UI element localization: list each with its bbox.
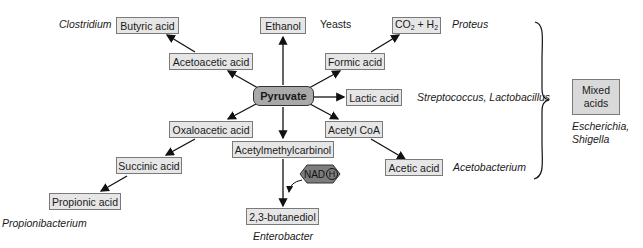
oxaloacetic-acid-node: Oxaloacetic acid (169, 121, 253, 138)
succinic-acid-node: Succinic acid (116, 157, 182, 174)
acetylmethylcarbinol-label: Acetylmethylcarbinol (235, 143, 331, 157)
butyric-acid-node: Butyric acid (116, 17, 179, 34)
organism-escherichia: Escherichia, (572, 120, 629, 132)
succinic-acid-label: Succinic acid (118, 159, 179, 173)
acetic-acid-node: Acetic acid (385, 159, 443, 176)
co2-h2-label: CO2 + H2 (395, 17, 438, 35)
nad-label: NAD (304, 169, 325, 180)
ethanol-label: Ethanol (265, 19, 301, 33)
organism-shigella: Shigella (572, 133, 609, 145)
circled-h: H (326, 168, 338, 180)
co2-h2-node: CO2 + H2 (392, 17, 441, 34)
pathway-arrows (0, 0, 643, 248)
butyric-acid-label: Butyric acid (120, 19, 174, 33)
organism-enterobacter: Enterobacter (253, 230, 313, 242)
organism-strep-lacto: Streptococcus, Lactobacillus (417, 91, 550, 103)
acids-label: acids (584, 97, 609, 110)
acetylmethylcarbinol-node: Acetylmethylcarbinol (232, 141, 334, 158)
propionic-acid-label: Propionic acid (52, 195, 118, 209)
propionic-acid-node: Propionic acid (49, 193, 121, 210)
nadh-cofactor: NADH (302, 165, 340, 183)
oxaloacetic-acid-label: Oxaloacetic acid (172, 123, 249, 137)
acetoacetic-acid-node: Acetoacetic acid (169, 53, 253, 70)
pyruvate-label: Pyruvate (260, 90, 306, 102)
acetyl-coa-node: Acetyl CoA (325, 121, 383, 138)
ethanol-node: Ethanol (260, 17, 306, 34)
organism-yeasts: Yeasts (320, 18, 351, 30)
organism-proteus: Proteus (452, 18, 488, 30)
formic-acid-node: Formic acid (325, 53, 385, 70)
mixed-acids-node: Mixed acids (572, 79, 620, 115)
organism-clostridium: Clostridium (59, 18, 112, 30)
butanediol-label: 2,3-butanediol (249, 210, 316, 224)
acetoacetic-acid-label: Acetoacetic acid (173, 55, 249, 69)
organism-acetobacterium: Acetobacterium (453, 161, 526, 173)
mixed-label: Mixed (582, 84, 610, 97)
acetyl-coa-label: Acetyl CoA (328, 123, 380, 137)
organism-propionibacterium: Propionibacterium (2, 217, 87, 229)
formic-acid-label: Formic acid (328, 55, 382, 69)
pyruvate-node: Pyruvate (253, 86, 314, 106)
acetic-acid-label: Acetic acid (389, 161, 440, 175)
lactic-acid-node: Lactic acid (346, 89, 402, 106)
butanediol-node: 2,3-butanediol (246, 208, 319, 225)
lactic-acid-label: Lactic acid (349, 91, 399, 105)
